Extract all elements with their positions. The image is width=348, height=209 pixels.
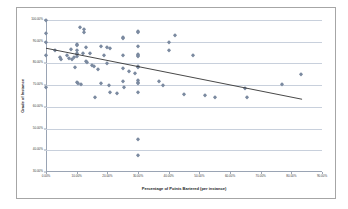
x-tick-label: 90.00% xyxy=(317,175,327,178)
x-tick-mark xyxy=(169,172,170,174)
x-tick-label: 60.00% xyxy=(225,175,235,178)
x-tick-label: 40.00% xyxy=(164,175,174,178)
x-tick-mark xyxy=(230,172,231,174)
y-tick-label: 60.00% xyxy=(33,105,43,108)
y-tick-label: 90.00% xyxy=(33,40,43,43)
y-tick-label: 50.00% xyxy=(33,127,43,130)
x-tick-label: 10.00% xyxy=(72,175,82,178)
x-tick-mark xyxy=(77,172,78,174)
y-tick-label: 70.00% xyxy=(33,84,43,87)
x-tick-mark xyxy=(199,172,200,174)
x-tick-label: 50.00% xyxy=(194,175,204,178)
x-tick-mark xyxy=(46,172,47,174)
y-tick-label: 100.00% xyxy=(31,18,43,21)
x-tick-label: 80.00% xyxy=(286,175,296,178)
chart-frame: 30.00%40.00%50.00%60.00%70.00%80.00%90.0… xyxy=(16,7,336,199)
x-tick-mark xyxy=(107,172,108,174)
y-axis-title: Grade of Instance xyxy=(20,79,25,113)
x-tick-mark xyxy=(322,172,323,174)
x-tick-mark xyxy=(138,172,139,174)
trendline xyxy=(46,20,322,172)
y-tick-label: 80.00% xyxy=(33,62,43,65)
y-tick-label: 40.00% xyxy=(33,149,43,152)
x-tick-label: 20.00% xyxy=(102,175,112,178)
x-tick-label: 0.00% xyxy=(42,175,51,178)
x-tick-mark xyxy=(291,172,292,174)
x-tick-label: 30.00% xyxy=(133,175,143,178)
x-tick-mark xyxy=(261,172,262,174)
scatter-plot-area: 30.00%40.00%50.00%60.00%70.00%80.00%90.0… xyxy=(46,20,322,172)
x-axis-title: Percentage of Points Bartered (per insta… xyxy=(46,186,322,191)
trendline-segment xyxy=(46,48,302,99)
x-tick-label: 70.00% xyxy=(256,175,266,178)
